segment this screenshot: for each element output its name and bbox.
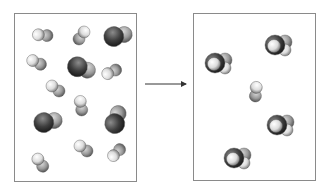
- dark-diatomic-molecule-icon: [30, 105, 65, 140]
- dark-diatomic-molecule-icon: [100, 19, 135, 54]
- h2-molecule-icon: [26, 52, 48, 72]
- h2-molecule-icon: [30, 23, 55, 47]
- dark-diatomic-molecule-icon: [64, 51, 99, 86]
- h2-molecule-icon: [28, 151, 52, 173]
- product-molecule-icon: [205, 53, 232, 74]
- product-molecule-icon: [267, 115, 294, 136]
- product-molecule-icon: [265, 35, 292, 56]
- h2-molecule-icon: [100, 59, 124, 84]
- h2-molecule-icon: [244, 79, 268, 104]
- h2-molecule-icon: [74, 140, 93, 157]
- molecules: [26, 19, 294, 174]
- h2-molecule-icon: [73, 26, 90, 45]
- reaction-scene: [0, 0, 329, 193]
- dark-diatomic-molecule-icon: [99, 103, 134, 138]
- h2-molecule-icon: [68, 93, 93, 118]
- h2-molecule-icon: [46, 80, 65, 97]
- h2-molecule-icon: [107, 142, 127, 164]
- product-molecule-icon: [224, 148, 251, 169]
